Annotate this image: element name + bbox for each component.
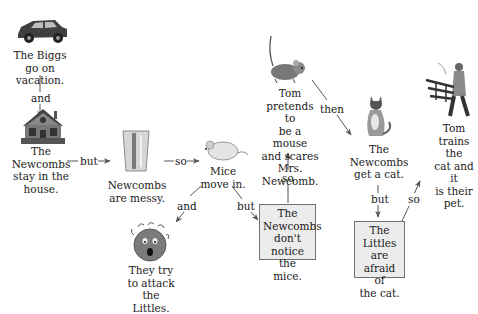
node-text-line: to attack bbox=[124, 277, 178, 290]
node-text-line: move in. bbox=[195, 178, 251, 191]
edge-label-and: and bbox=[31, 92, 51, 104]
edge-label-so: so bbox=[408, 193, 420, 205]
node-text-line: is their bbox=[430, 185, 478, 198]
node-text-line: the cat. bbox=[358, 287, 401, 300]
node-text-line: The bbox=[349, 143, 409, 156]
node-tom-trains: Tom trains the cat and it is their pet. bbox=[430, 122, 478, 210]
node-biggs-vacation: The Biggs go on vacation. bbox=[8, 49, 72, 87]
trainer-icon bbox=[424, 60, 474, 125]
node-newcombs-stay: The Newcombs stay in the house. bbox=[10, 145, 72, 195]
node-dont-notice: The Newcombs don't notice the mice. bbox=[259, 204, 316, 260]
node-text-line: Newcombs bbox=[10, 158, 72, 171]
mouse-icon bbox=[201, 137, 249, 163]
node-text-line: The bbox=[358, 224, 401, 237]
node-attack-littles: They try to attack the Littles. bbox=[124, 264, 178, 314]
house-icon bbox=[19, 106, 67, 146]
node-text-line: vacation. bbox=[8, 74, 72, 87]
edge-label-but: but bbox=[371, 193, 389, 205]
node-text-line: get a cat. bbox=[349, 168, 409, 181]
node-text-line: and scares bbox=[261, 150, 319, 163]
mouse-icon bbox=[265, 34, 307, 84]
node-text-line: Newcombs bbox=[106, 179, 168, 192]
node-get-cat: The Newcombs get a cat. bbox=[349, 143, 409, 181]
node-mice-move-in: Mice move in. bbox=[195, 165, 251, 190]
edge-label-so: so bbox=[175, 155, 187, 167]
node-text-line: Newcombs bbox=[349, 156, 409, 169]
edge-label-but: but bbox=[80, 155, 98, 167]
node-text-line: Littles are bbox=[358, 237, 401, 262]
node-text-line: be a mouse bbox=[261, 125, 319, 150]
node-text-line: stay in the bbox=[10, 170, 72, 183]
scared-face-icon bbox=[128, 221, 172, 263]
node-text-line: Tom bbox=[430, 122, 478, 135]
node-text-line: trains the bbox=[430, 135, 478, 160]
cat-icon bbox=[363, 94, 393, 142]
edge-label-but: but bbox=[237, 200, 255, 212]
node-text-line: don't notice bbox=[263, 232, 312, 257]
node-text-line: Mrs. bbox=[261, 162, 319, 175]
node-text-line: pretends to bbox=[261, 100, 319, 125]
node-text-line: the mice. bbox=[263, 257, 312, 282]
car-icon bbox=[15, 16, 70, 46]
node-text-line: The bbox=[10, 145, 72, 158]
node-text-line: Newcombs bbox=[263, 220, 312, 233]
node-text-line: The bbox=[263, 207, 312, 220]
node-text-line: are messy. bbox=[106, 192, 168, 205]
node-text-line: cat and it bbox=[430, 160, 478, 185]
node-text-line: go on bbox=[8, 62, 72, 75]
node-text-line: Mice bbox=[195, 165, 251, 178]
node-text-line: Newcomb. bbox=[261, 175, 319, 188]
node-text-line: pet. bbox=[430, 197, 478, 210]
node-newcombs-messy: Newcombs are messy. bbox=[106, 179, 168, 204]
node-text-line: The Biggs bbox=[8, 49, 72, 62]
node-text-line: the Littles. bbox=[124, 289, 178, 314]
node-tom-pretends: Tom pretends to be a mouse and scares Mr… bbox=[261, 87, 319, 187]
node-text-line: Tom bbox=[261, 87, 319, 100]
edge-label-then: then bbox=[320, 103, 344, 115]
node-littles-afraid: The Littles are afraid of the cat. bbox=[354, 221, 405, 278]
node-text-line: They try bbox=[124, 264, 178, 277]
edge-label-and: and bbox=[177, 200, 197, 212]
trash-can-icon bbox=[121, 129, 151, 173]
node-text-line: afraid of bbox=[358, 262, 401, 287]
node-text-line: house. bbox=[10, 183, 72, 196]
